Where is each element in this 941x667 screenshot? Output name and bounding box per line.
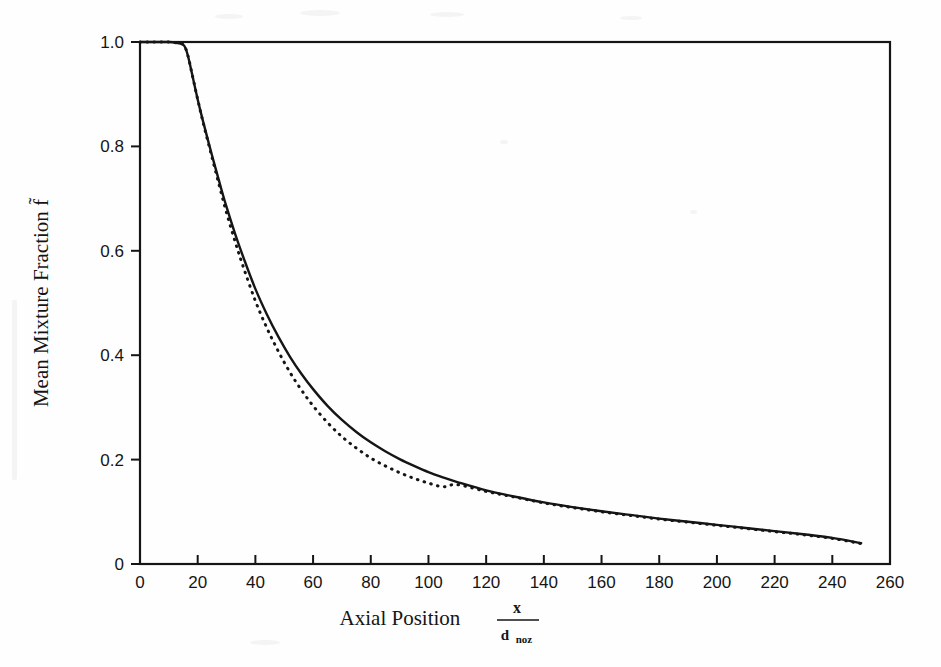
y-axis-title: Mean Mixture Fraction f̃: [28, 197, 53, 407]
x-tick-label: 0: [135, 573, 144, 592]
fraction-denominator: d: [501, 627, 510, 643]
x-axis-title-text: Axial Position: [340, 606, 461, 630]
y-tick-label: 0.8: [100, 137, 124, 156]
x-tick-label: 100: [414, 573, 442, 592]
svg-text:Mean Mixture Fraction f̃: Mean Mixture Fraction f̃: [28, 197, 53, 407]
series-dotted-curve: [140, 42, 861, 544]
x-axis-title: Axial Position x d noz: [340, 599, 539, 645]
y-tick-label: 0.2: [100, 451, 124, 470]
y-tick-label: 0: [115, 555, 124, 574]
x-tick-label: 120: [472, 573, 500, 592]
y-axis-tick-labels: 00.20.40.60.81.0: [100, 33, 124, 574]
y-tick-label: 0.4: [100, 346, 124, 365]
x-tick-label: 240: [818, 573, 846, 592]
plot-frame: [140, 42, 890, 564]
x-tick-label: 20: [188, 573, 207, 592]
x-tick-label: 200: [703, 573, 731, 592]
x-tick-label: 140: [530, 573, 558, 592]
x-tick-label: 60: [304, 573, 323, 592]
x-tick-label: 80: [361, 573, 380, 592]
y-tick-label: 0.6: [100, 242, 124, 261]
chart-plot-area: 020406080100120140160180200220240260 00.…: [0, 0, 941, 667]
x-tick-label: 40: [246, 573, 265, 592]
fraction-denominator-subscript: noz: [516, 633, 533, 645]
x-axis-ticks: [140, 555, 890, 564]
x-tick-label: 260: [876, 573, 904, 592]
x-axis-tick-labels: 020406080100120140160180200220240260: [135, 573, 904, 592]
x-tick-label: 180: [645, 573, 673, 592]
y-tick-label: 1.0: [100, 33, 124, 52]
series-solid-curve: [140, 42, 861, 543]
x-tick-label: 220: [760, 573, 788, 592]
x-tick-label: 160: [587, 573, 615, 592]
y-axis-ticks: [131, 42, 140, 564]
figure-canvas: 020406080100120140160180200220240260 00.…: [0, 0, 941, 667]
fraction-numerator: x: [513, 599, 521, 616]
data-series-group: [140, 42, 861, 544]
y-axis-title-text: Mean Mixture Fraction f̃: [28, 197, 53, 407]
x-axis-title-fraction: x d noz: [497, 599, 539, 645]
svg-text:Axial Position: Axial Position: [340, 606, 461, 630]
